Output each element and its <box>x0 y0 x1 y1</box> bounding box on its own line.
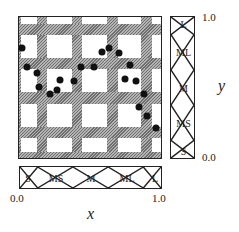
y-set-label-MS: MS <box>176 119 190 129</box>
x-set-label-ML: ML <box>120 174 135 184</box>
data-point <box>121 75 128 82</box>
data-point <box>135 103 142 110</box>
data-point <box>56 77 63 84</box>
data-point <box>116 50 123 57</box>
data-point <box>133 78 140 85</box>
data-point <box>34 70 41 77</box>
x-axis-label: x <box>87 206 94 222</box>
data-point <box>99 49 106 56</box>
data-point <box>141 91 148 98</box>
data-point <box>90 64 97 71</box>
y-set-label-L: L <box>180 20 186 30</box>
horizontal-overlap-band <box>19 127 161 138</box>
x-membership-functions: S MS M ML L <box>19 166 162 189</box>
horizontal-overlap-band <box>19 24 161 35</box>
y-set-label-ML: ML <box>176 48 191 58</box>
x-set-label-M: M <box>87 174 96 184</box>
data-point <box>54 86 61 93</box>
x-set-label-L: L <box>152 174 158 184</box>
data-point <box>78 64 85 71</box>
scatter-plot-area <box>18 16 162 159</box>
x-set-label-MS: MS <box>49 174 63 184</box>
x-set-label-S: S <box>25 174 31 184</box>
y-max-label: 1.0 <box>202 12 216 23</box>
y-axis-label: y <box>218 78 225 94</box>
horizontal-overlap-band <box>19 92 161 104</box>
data-point <box>152 124 159 131</box>
data-point <box>24 64 31 71</box>
data-point <box>106 44 113 51</box>
x-min-label: 0.0 <box>10 193 24 204</box>
y-set-label-S: S <box>181 147 187 157</box>
data-point <box>70 78 77 85</box>
horizontal-overlap-band <box>19 152 161 159</box>
data-point <box>144 113 151 120</box>
y-membership-functions: L ML M MS S <box>170 16 195 159</box>
data-point <box>35 84 42 91</box>
x-max-label: 1.0 <box>152 193 166 204</box>
y-set-label-M: M <box>179 84 188 94</box>
data-point <box>18 44 25 51</box>
y-min-label: 0.0 <box>202 152 216 163</box>
data-point <box>127 61 134 68</box>
data-point <box>47 91 54 98</box>
